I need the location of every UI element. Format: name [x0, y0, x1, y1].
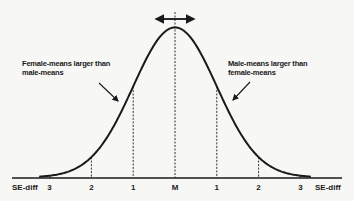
normal-curve-diagram: Female-means larger than male-means Male… — [0, 0, 354, 201]
annotation-left-line1: Female-means larger than — [22, 59, 111, 68]
annotation-left-arrow — [99, 83, 118, 101]
axis-end-label-right: SE-diff — [315, 183, 341, 192]
annotation-right-line1: Male-means larger than — [228, 59, 308, 68]
annotation-left-line2: male-means — [22, 68, 63, 77]
tick-label: 1 — [131, 183, 136, 192]
annotation-right-line2: female-means — [228, 68, 276, 77]
tick-label: 1 — [215, 183, 220, 192]
tick-label: M — [172, 183, 179, 192]
tick-label: 3 — [47, 183, 52, 192]
axis-end-label-left: SE-diff — [12, 183, 38, 192]
tick-label: 3 — [298, 183, 303, 192]
normal-curve — [39, 27, 311, 176]
tick-label: 2 — [256, 183, 261, 192]
tick-label: 2 — [89, 183, 94, 192]
annotation-right-arrow — [233, 82, 250, 100]
